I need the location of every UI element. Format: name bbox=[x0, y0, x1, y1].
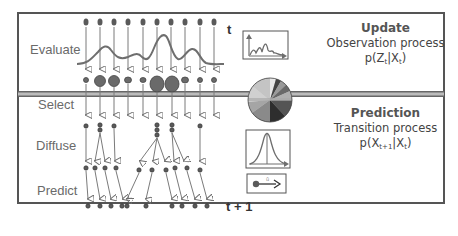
prediction-subtitle: Transition process bbox=[318, 121, 453, 136]
prediction-formula: p(Xt+1|Xt) bbox=[318, 136, 453, 155]
update-title: Update bbox=[318, 21, 453, 36]
prediction-panel: Prediction Transition process p(Xt+1|Xt) bbox=[318, 106, 453, 155]
update-panel: Update Observation process p(Zt|Xt) bbox=[318, 21, 453, 70]
diffused-particles bbox=[84, 166, 202, 172]
likelihood-graph-icon bbox=[243, 31, 288, 59]
particles-t bbox=[84, 19, 217, 26]
diffuse-arrows bbox=[86, 129, 200, 161]
likelihood-curve bbox=[77, 35, 224, 64]
selected-particles bbox=[84, 123, 202, 137]
stage-label-diffuse: Diffuse bbox=[36, 138, 76, 153]
prediction-title: Prediction bbox=[318, 106, 453, 121]
weighted-particles bbox=[84, 76, 217, 93]
pie-chart-icon bbox=[248, 78, 292, 122]
stage-label-predict: Predict bbox=[37, 183, 77, 198]
particle-motion-icon: ū bbox=[247, 174, 286, 193]
evaluate-arrows bbox=[86, 27, 214, 69]
stage-label-select: Select bbox=[38, 97, 74, 112]
particles-t-plus-1 bbox=[86, 204, 209, 208]
predict-arrows bbox=[86, 171, 207, 199]
time-label-t: t bbox=[227, 22, 231, 37]
stage-label-evaluate: Evaluate bbox=[30, 42, 81, 57]
svg-text:ū: ū bbox=[266, 176, 269, 182]
update-subtitle: Observation process bbox=[318, 36, 453, 51]
select-arrows bbox=[86, 84, 214, 115]
update-formula: p(Zt|Xt) bbox=[318, 51, 453, 70]
gaussian-curve-icon bbox=[246, 130, 290, 168]
time-label-t-plus-1: t + 1 bbox=[226, 199, 252, 214]
